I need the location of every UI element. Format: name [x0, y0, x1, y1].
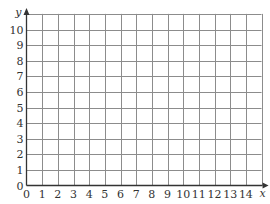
x-tick-label: 1: [39, 188, 46, 201]
y-tick-label: 6: [17, 86, 24, 99]
y-tick-label: 3: [17, 133, 24, 146]
x-tick-label: 2: [54, 188, 61, 201]
axes: [24, 8, 269, 189]
x-tick-label: 14: [239, 188, 253, 201]
y-tick-label: 4: [17, 117, 24, 130]
x-tick-label: 10: [176, 188, 190, 201]
x-tick-label: 8: [148, 188, 155, 201]
y-tick-label: 10: [10, 24, 24, 37]
x-tick-label: 6: [117, 188, 124, 201]
grid-lines: [27, 14, 263, 186]
y-tick-label: 5: [17, 102, 24, 115]
y-tick-label: 2: [17, 148, 24, 161]
y-tick-label: 7: [17, 70, 24, 83]
x-tick-label: 9: [164, 188, 171, 201]
y-axis-arrow-icon: [24, 8, 30, 15]
y-tick-label: 8: [17, 55, 24, 68]
x-tick-label: 12: [208, 188, 222, 201]
x-tick-label: 13: [223, 188, 237, 201]
y-axis-label: y: [14, 6, 22, 19]
x-tick-label: 4: [86, 188, 93, 201]
x-tick-label: 7: [133, 188, 140, 201]
coordinate-grid: 01234567891011121314 012345678910 x y: [0, 0, 270, 204]
y-tick-label: 9: [17, 39, 24, 52]
y-axis-tick-labels: 012345678910: [10, 24, 24, 193]
x-tick-label: 11: [192, 188, 206, 201]
x-axis-label: x: [260, 187, 267, 200]
x-axis-tick-labels: 01234567891011121314: [23, 188, 253, 201]
x-tick-label: 3: [70, 188, 77, 201]
x-tick-label: 0: [23, 188, 30, 201]
y-tick-label: 1: [17, 164, 24, 177]
x-tick-label: 5: [101, 188, 108, 201]
y-tick-label: 0: [17, 180, 24, 193]
